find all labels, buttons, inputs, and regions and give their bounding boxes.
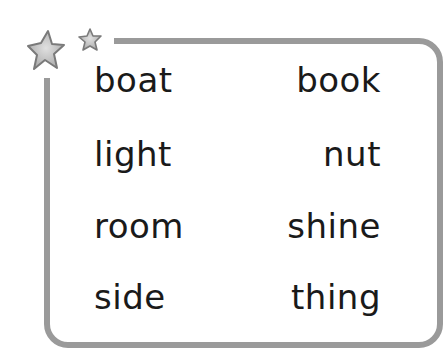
word-right-1: book bbox=[296, 60, 381, 100]
word-left-2: light bbox=[94, 134, 172, 174]
word-left-4: side bbox=[94, 277, 166, 317]
word-left-1: boat bbox=[94, 60, 173, 100]
word-right-3: shine bbox=[287, 206, 381, 246]
star-icon-small bbox=[78, 28, 104, 53]
word-right-4: thing bbox=[291, 277, 381, 317]
word-left-3: room bbox=[94, 206, 184, 246]
star-icon-large bbox=[26, 29, 66, 71]
word-right-2: nut bbox=[323, 134, 381, 174]
